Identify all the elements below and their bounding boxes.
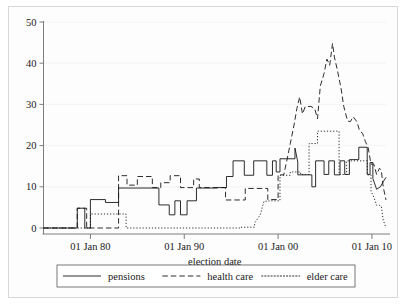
line-chart: 01020304050 01 Jan 8001 Jan 9001 Jan 000… <box>0 0 406 307</box>
y-tick-label: 10 <box>26 181 37 192</box>
plot-wrapper: 01020304050 01 Jan 8001 Jan 9001 Jan 000… <box>0 0 406 307</box>
legend-label-health-care: health care <box>207 271 253 282</box>
y-tick-label: 30 <box>26 99 37 110</box>
y-tick-label: 50 <box>26 17 37 28</box>
y-tick-label: 0 <box>31 223 36 234</box>
legend-label-pensions: pensions <box>108 271 145 282</box>
chart-legend: pensionshealth careelder care <box>57 265 355 287</box>
x-tick-label: 01 Jan 00 <box>258 241 298 252</box>
data-series-group <box>44 43 387 228</box>
chart-screenshot: 01020304050 01 Jan 8001 Jan 9001 Jan 000… <box>0 0 406 307</box>
x-axis-ticks: 01 Jan 8001 Jan 9001 Jan 0001 Jan 10 <box>70 234 392 252</box>
y-tick-label: 20 <box>26 140 37 151</box>
axes <box>43 21 391 234</box>
y-tick-label: 40 <box>26 58 37 69</box>
x-tick-label: 01 Jan 80 <box>70 241 110 252</box>
x-tick-label: 01 Jan 90 <box>164 241 204 252</box>
legend-label-elder-care: elder care <box>307 271 348 282</box>
x-tick-label: 01 Jan 10 <box>352 241 392 252</box>
series-line-health-care <box>44 43 387 228</box>
y-axis-ticks: 01020304050 <box>26 17 44 234</box>
